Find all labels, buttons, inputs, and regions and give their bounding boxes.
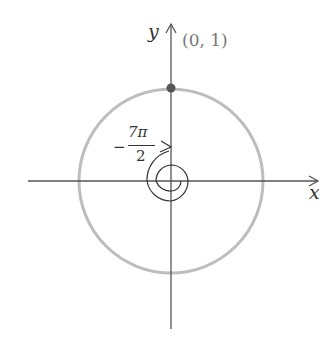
- angle-numerator: 7π: [128, 123, 147, 141]
- spiral-arrowhead: [160, 141, 171, 152]
- fraction-bar: [128, 145, 155, 146]
- angle-sign: −: [113, 138, 126, 156]
- angle-spiral: [147, 151, 188, 201]
- x-axis-label: x: [309, 181, 320, 203]
- unit-circle-diagram: y x (0, 1) − 7π 2: [0, 0, 335, 341]
- y-axis-label: y: [148, 20, 159, 42]
- angle-denominator: 2: [136, 147, 146, 165]
- point-label: (0, 1): [182, 30, 228, 50]
- diagram-canvas: [0, 0, 335, 341]
- point-0-1: [167, 84, 176, 93]
